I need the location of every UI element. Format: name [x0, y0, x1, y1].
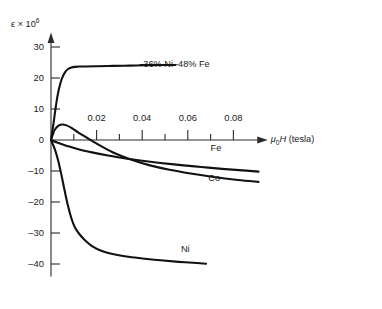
plot-area — [0, 0, 382, 309]
x-axis-arrowhead — [257, 137, 268, 144]
x-axis — [51, 137, 268, 144]
y-axis-tick-label: –10 — [11, 166, 44, 175]
x-axis-title: μ0H (tesla) — [271, 135, 314, 146]
y-axis-tick-label: 0 — [11, 135, 44, 144]
y-axis-tick-label: –30 — [11, 228, 44, 237]
magnetostriction-chart: ε × 106 μ0H (tesla) 3020100–10–20–30–40 … — [0, 0, 382, 309]
curve-36-ni-48-fe — [51, 65, 175, 140]
y-axis-title-exponent: 6 — [36, 17, 40, 24]
x-axis-tick-label: 0.08 — [215, 113, 251, 122]
x-axis-tick-label: 0.04 — [124, 113, 160, 122]
curve-label-ni: Ni — [181, 245, 190, 254]
y-axis-title-epsilon: ε — [11, 19, 15, 29]
x-axis-title-field: H — [279, 134, 286, 144]
x-axis-tick-label: 0.02 — [79, 113, 115, 122]
y-axis — [48, 33, 55, 277]
y-axis-tick-label: 20 — [11, 73, 44, 82]
y-axis-title: ε × 106 — [11, 18, 40, 29]
y-axis-ticks — [51, 47, 60, 264]
y-axis-title-base: 10 — [26, 19, 36, 29]
curve-label-36-ni-48-fe: 36% Ni–48% Fe — [143, 60, 209, 69]
x-axis-tick-label: 0.06 — [170, 113, 206, 122]
y-axis-tick-label: –20 — [11, 197, 44, 206]
data-curves — [51, 65, 258, 264]
x-axis-title-unit: (tesla) — [289, 134, 315, 144]
curve-co — [51, 124, 258, 181]
y-axis-tick-label: –40 — [11, 259, 44, 268]
y-axis-title-times: × — [18, 19, 23, 29]
y-axis-tick-label: 10 — [11, 104, 44, 113]
y-axis-arrowhead — [48, 33, 55, 44]
y-axis-tick-label: 30 — [11, 42, 44, 51]
curve-label-fe: Fe — [211, 144, 222, 153]
curve-label-co: Co — [208, 174, 220, 183]
